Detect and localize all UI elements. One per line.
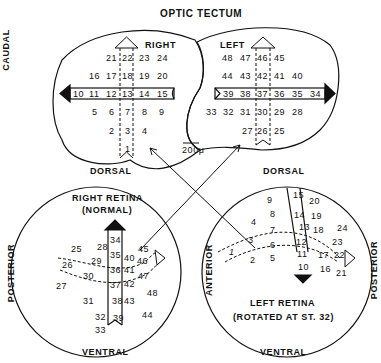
left-retina-curved-arrowhead [345, 250, 355, 267]
optic-tectum-diagram [0, 0, 381, 363]
left-retina-title: LEFT RETINA [250, 298, 315, 308]
dorsal-label-right-retina: DORSAL [90, 166, 132, 176]
scale-bar-label: 200μ [182, 145, 205, 155]
projection-arrows [140, 145, 255, 250]
diagram-title: OPTIC TECTUM [160, 8, 242, 19]
right-retina-ventral-label: VENTRAL [82, 347, 129, 357]
left-retina-posterior-label: POSTERIOR [369, 241, 379, 299]
right-retina-subtitle: (NORMAL) [82, 205, 132, 215]
right-retina-curved-arrowhead [155, 250, 165, 265]
right-retina-title: RIGHT RETINA [72, 193, 143, 203]
dorsal-label-left-retina: DORSAL [263, 166, 305, 176]
tectum-right-label: RIGHT [145, 40, 176, 50]
tectum-left-label: LEFT [220, 40, 245, 50]
right-retina-posterior-label: POSTERIOR [6, 244, 16, 302]
left-retina-anterior-label: ANTERIOR [204, 244, 214, 296]
caudal-label: CAUDAL [1, 29, 11, 71]
left-retina-ventral-label: VENTRAL [260, 347, 307, 357]
left-retina-subtitle: (ROTATED AT ST. 32) [233, 312, 334, 322]
